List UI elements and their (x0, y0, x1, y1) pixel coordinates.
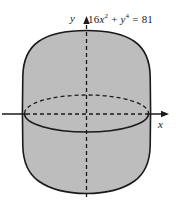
equation-operator: + (111, 13, 117, 25)
equation-equals-sign: = (132, 13, 138, 25)
equation-label: 16x2 + y4 = 81 (88, 13, 153, 25)
equation-exponent-y: 4 (126, 12, 130, 20)
x-axis-label: x (158, 118, 163, 130)
y-axis-label: y (70, 12, 75, 24)
equation-exponent-x: 2 (105, 12, 109, 20)
superellipse-solid-diagram (0, 0, 176, 208)
x-axis-arrowhead (161, 111, 169, 117)
equation-coefficient: 16 (88, 13, 99, 25)
figure-container: 16x2 + y4 = 81 y x (0, 0, 176, 208)
equation-rhs: 81 (142, 13, 153, 25)
